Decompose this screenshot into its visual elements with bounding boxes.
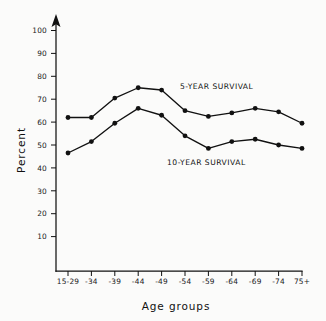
y-tick-label: 60 [37, 118, 47, 127]
data-point [136, 85, 141, 90]
series-label-10-year: 10-YEAR SURVIVAL [167, 158, 246, 167]
data-point [276, 143, 281, 148]
data-point [89, 115, 94, 120]
y-tick-label: 20 [37, 209, 47, 218]
data-point [276, 109, 281, 114]
data-point [183, 133, 188, 138]
survival-line-chart: 100 90 80 70 60 50 40 30 20 10 15-29 -34 [0, 0, 326, 321]
x-tick-label: -54 [179, 277, 192, 286]
data-point [159, 113, 164, 118]
data-point [66, 151, 71, 156]
x-tick-label: -39 [108, 277, 121, 286]
x-tick-label: -74 [272, 277, 285, 286]
series-line-10-year [68, 108, 302, 153]
x-axis-title: Age groups [142, 300, 211, 312]
data-point [159, 88, 164, 93]
series-label-5-year: 5-YEAR SURVIVAL [180, 82, 254, 91]
y-tick-label: 50 [37, 141, 47, 150]
data-point [253, 106, 258, 111]
y-axis-title: Percent [15, 127, 27, 173]
data-point [89, 139, 94, 144]
series-layer [66, 85, 305, 155]
data-point [206, 114, 211, 119]
y-tick-label: 100 [32, 26, 47, 35]
x-tick-label: -49 [155, 277, 168, 286]
x-tick-label: -44 [132, 277, 145, 286]
x-tick-group: 15-29 -34 -39 -44 -49 -54 -59 -64 -69 -7… [57, 271, 310, 286]
y-tick-label: 10 [37, 232, 47, 241]
data-point [136, 106, 141, 111]
data-point [229, 139, 234, 144]
x-tick-label: -64 [225, 277, 238, 286]
y-tick-label: 80 [37, 72, 47, 81]
data-point [112, 96, 117, 101]
y-tick-label: 70 [37, 95, 47, 104]
chart-figure: 100 90 80 70 60 50 40 30 20 10 15-29 -34 [0, 0, 326, 321]
data-point [253, 137, 258, 142]
x-tick-label: -59 [202, 277, 215, 286]
data-point [183, 108, 188, 113]
x-tick-label: -34 [85, 277, 98, 286]
y-tick-label: 30 [37, 187, 47, 196]
series-line-5-year [68, 88, 302, 124]
x-tick-label: 75+ [294, 277, 310, 286]
data-point [206, 146, 211, 151]
y-tick-group: 100 90 80 70 60 50 40 30 20 10 [32, 26, 56, 241]
x-tick-label: 15-29 [57, 277, 80, 286]
y-tick-label: 40 [37, 164, 47, 173]
data-point [112, 121, 117, 126]
y-tick-label: 90 [37, 49, 47, 58]
data-point [229, 111, 234, 116]
data-point [66, 115, 71, 120]
data-point [300, 121, 305, 126]
data-point [300, 146, 305, 151]
x-tick-label: -69 [249, 277, 262, 286]
